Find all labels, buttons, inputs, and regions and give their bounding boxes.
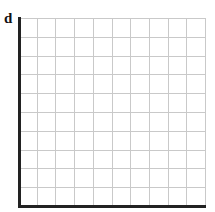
grid-line-horizontal [19,187,206,188]
plot-grid [19,18,206,206]
grid-line-horizontal [19,37,206,38]
y-axis [18,17,21,208]
grid-line-horizontal [19,56,206,57]
grid-line-horizontal [19,112,206,113]
grid-line-horizontal [19,168,206,169]
grid-line-horizontal [19,93,206,94]
x-axis [18,205,206,208]
panel-label: d [4,10,12,27]
grid-line-horizontal [19,74,206,75]
grid-line-horizontal [19,18,206,19]
grid-line-horizontal [19,131,206,132]
grid-line-horizontal [19,150,206,151]
